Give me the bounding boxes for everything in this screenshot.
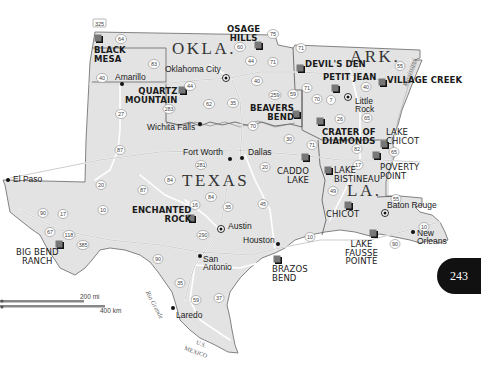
city-label-wichita-falls[interactable]: Wichita Falls bbox=[147, 123, 195, 132]
city-label-fort-worth[interactable]: Fort Worth bbox=[183, 148, 223, 157]
park-label-devils-den[interactable]: DEVIL'S DEN bbox=[305, 60, 366, 69]
svg-text:90: 90 bbox=[155, 256, 161, 262]
svg-text:10: 10 bbox=[307, 234, 313, 240]
svg-text:16: 16 bbox=[192, 202, 198, 208]
svg-text:259: 259 bbox=[270, 92, 279, 98]
svg-text:62: 62 bbox=[206, 101, 212, 107]
svg-text:75: 75 bbox=[270, 31, 276, 37]
city-label-houston[interactable]: Houston bbox=[243, 236, 275, 245]
state-label-texas: TEXAS bbox=[182, 172, 249, 189]
city-label-dallas[interactable]: Dallas bbox=[248, 148, 272, 157]
svg-text:118: 118 bbox=[65, 232, 74, 238]
svg-text:71: 71 bbox=[298, 45, 304, 51]
svg-text:20: 20 bbox=[262, 164, 268, 170]
svg-text:83: 83 bbox=[151, 61, 157, 67]
svg-text:59: 59 bbox=[193, 297, 199, 303]
park-label-lake-fausse-pointe[interactable]: LAKEFAUSSEPOINTE bbox=[345, 240, 378, 266]
city-dot-laredo bbox=[171, 306, 175, 310]
svg-text:90: 90 bbox=[392, 241, 398, 247]
city-label-oklahoma-city[interactable]: Oklahoma City bbox=[165, 65, 221, 74]
svg-text:90: 90 bbox=[40, 210, 46, 216]
svg-text:35: 35 bbox=[230, 100, 236, 106]
svg-text:65: 65 bbox=[364, 115, 370, 121]
svg-text:64: 64 bbox=[118, 36, 124, 42]
svg-text:40: 40 bbox=[363, 84, 369, 90]
city-dot-houston bbox=[276, 242, 280, 246]
scale-label-miles: 200 mi bbox=[80, 294, 100, 301]
svg-text:44: 44 bbox=[187, 83, 193, 89]
park-label-beavers-bend[interactable]: BEAVERSBEND bbox=[250, 104, 294, 121]
svg-text:30: 30 bbox=[286, 136, 292, 142]
park-label-petit-jean[interactable]: PETIT JEAN bbox=[323, 73, 376, 82]
city-dot-san-antonio bbox=[198, 254, 202, 258]
city-label-baton-rouge[interactable]: Baton Rouge bbox=[387, 201, 437, 210]
city-label-laredo[interactable]: Laredo bbox=[176, 311, 202, 320]
park-label-enchanted-rock[interactable]: ENCHANTEDROCK bbox=[132, 206, 192, 223]
svg-text:71: 71 bbox=[270, 59, 276, 65]
svg-text:84: 84 bbox=[167, 177, 173, 183]
state-label-la: LA. bbox=[347, 182, 381, 199]
svg-text:35: 35 bbox=[177, 280, 183, 286]
svg-text:281: 281 bbox=[196, 162, 205, 168]
svg-text:40: 40 bbox=[254, 78, 260, 84]
park-label-caddo-lake[interactable]: CADDOLAKE bbox=[277, 167, 309, 184]
svg-text:17: 17 bbox=[60, 211, 66, 217]
svg-text:10: 10 bbox=[100, 207, 106, 213]
svg-text:84: 84 bbox=[208, 194, 214, 200]
scale-label-km: 400 km bbox=[100, 308, 121, 315]
svg-text:26: 26 bbox=[337, 116, 343, 122]
park-label-quartz-mountain[interactable]: QUARTZMOUNTAIN bbox=[125, 87, 178, 104]
city-dot-amarillo bbox=[120, 82, 124, 86]
svg-text:87: 87 bbox=[140, 187, 146, 193]
city-dot-new-orleans bbox=[411, 230, 415, 234]
svg-text:70: 70 bbox=[314, 96, 320, 102]
park-label-chicot[interactable]: CHICOT bbox=[326, 210, 359, 219]
svg-text:35: 35 bbox=[225, 204, 231, 210]
city-label-san-antonio[interactable]: SanAntonio bbox=[203, 255, 232, 271]
svg-text:71: 71 bbox=[304, 85, 310, 91]
park-label-lake-bistineau[interactable]: LAKEBISTINEAU bbox=[334, 166, 380, 183]
svg-text:67: 67 bbox=[47, 229, 53, 235]
svg-text:60: 60 bbox=[237, 44, 243, 50]
city-label-new-orleans[interactable]: NewOrleans bbox=[417, 229, 447, 245]
city-label-austin[interactable]: Austin bbox=[228, 222, 252, 231]
park-label-big-bend-ranch[interactable]: BIG BENDRANCH bbox=[16, 248, 59, 265]
svg-text:82: 82 bbox=[354, 146, 360, 152]
page-number-badge: 243 bbox=[437, 258, 481, 294]
city-label-el-paso[interactable]: El Paso bbox=[13, 175, 42, 184]
svg-text:44: 44 bbox=[248, 58, 254, 64]
park-label-black-mesa[interactable]: BLACKMESA bbox=[94, 46, 126, 63]
svg-text:87: 87 bbox=[117, 147, 123, 153]
park-label-brazos-bend[interactable]: BRAZOSBEND bbox=[272, 265, 308, 282]
svg-text:59: 59 bbox=[290, 91, 296, 97]
city-dot-el-paso bbox=[6, 178, 10, 182]
city-dot-wichita-falls bbox=[198, 122, 202, 126]
svg-text:65: 65 bbox=[391, 149, 397, 155]
park-label-osage-hills[interactable]: OSAGEHILLS bbox=[227, 25, 260, 42]
svg-text:20: 20 bbox=[98, 182, 104, 188]
city-dot-dallas bbox=[240, 156, 244, 160]
svg-text:385: 385 bbox=[78, 242, 87, 248]
city-label-little-rock[interactable]: LittleRock bbox=[355, 97, 374, 113]
city-dot-fort-worth bbox=[228, 157, 232, 161]
svg-text:290: 290 bbox=[198, 232, 207, 238]
park-label-poverty-point[interactable]: POVERTYPOINT bbox=[380, 163, 419, 180]
park-label-crater-of-diamonds[interactable]: CRATER OFDIAMONDS bbox=[322, 128, 376, 145]
park-label-village-creek[interactable]: VILLAGE CREEK bbox=[387, 76, 462, 85]
city-label-amarillo[interactable]: Amarillo bbox=[115, 73, 146, 82]
svg-text:71: 71 bbox=[309, 142, 315, 148]
svg-text:70: 70 bbox=[250, 123, 256, 129]
park-label-lake-chicot[interactable]: LAKECHICOT bbox=[386, 128, 419, 145]
park-icon-brazos-bend bbox=[274, 256, 283, 265]
svg-text:283: 283 bbox=[164, 106, 173, 112]
svg-text:7: 7 bbox=[329, 97, 332, 103]
scale-bar bbox=[0, 300, 105, 309]
svg-text:45: 45 bbox=[260, 201, 266, 207]
svg-text:27: 27 bbox=[118, 111, 124, 117]
svg-text:49: 49 bbox=[330, 188, 336, 194]
svg-text:325: 325 bbox=[95, 21, 104, 27]
svg-text:37: 37 bbox=[216, 295, 222, 301]
state-label-okla: OKLA. bbox=[172, 40, 236, 57]
svg-text:40: 40 bbox=[99, 75, 105, 81]
